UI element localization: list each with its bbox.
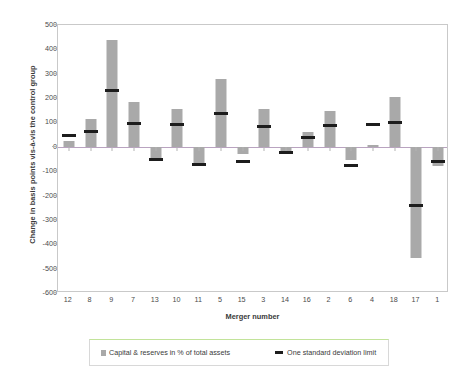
legend-bar-swatch-icon: [101, 350, 106, 356]
x-tick-mark: [242, 147, 243, 151]
x-tick-mark: [351, 147, 352, 151]
x-axis-tick-labels: 128971310115153141626418171: [57, 295, 448, 309]
bar-group: [340, 25, 362, 291]
bar-group: [362, 25, 384, 291]
bar: [107, 40, 118, 147]
bar: [324, 111, 335, 147]
y-tick-label: -200: [11, 190, 57, 199]
x-tick-mark: [416, 147, 417, 151]
std-deviation-marker: [279, 151, 293, 154]
plot-inner: [58, 25, 447, 291]
bars-layer: [58, 25, 447, 291]
y-tick-label: 100: [11, 117, 57, 126]
std-deviation-marker: [323, 124, 337, 127]
x-axis-title: Merger number: [57, 312, 448, 321]
std-deviation-marker: [170, 123, 184, 126]
y-tick-label: 400: [11, 44, 57, 53]
bar-group: [210, 25, 232, 291]
y-tick-label: -600: [11, 288, 57, 297]
std-deviation-marker: [192, 163, 206, 166]
x-tick-mark: [329, 147, 330, 151]
std-deviation-marker: [105, 89, 119, 92]
legend-item-std-deviation: One standard deviation limit: [275, 348, 376, 357]
x-tick-mark: [90, 147, 91, 151]
y-tick-mark: [52, 292, 57, 293]
std-deviation-marker: [127, 122, 141, 125]
bar-group: [297, 25, 319, 291]
x-tick-mark: [155, 147, 156, 151]
y-tick-label: 0: [11, 141, 57, 150]
std-deviation-marker: [149, 158, 163, 161]
y-tick-label: -100: [11, 166, 57, 175]
plot-area: [57, 24, 448, 292]
std-deviation-marker: [366, 123, 380, 126]
y-tick-label: -300: [11, 214, 57, 223]
x-tick-mark: [307, 147, 308, 151]
x-tick-mark: [134, 147, 135, 151]
bar-group: [427, 25, 449, 291]
x-tick-mark: [68, 147, 69, 151]
legend-item-capital-reserves: Capital & reserves in % of total assets: [101, 348, 230, 357]
bar-group: [101, 25, 123, 291]
chart-figure: Change in basis points vis-à-vis the con…: [0, 0, 469, 382]
bar-group: [406, 25, 428, 291]
bar: [172, 109, 183, 147]
bar-group: [123, 25, 145, 291]
x-tick-mark: [199, 147, 200, 151]
x-tick-mark: [394, 147, 395, 151]
bar-group: [232, 25, 254, 291]
chart-legend: Capital & reserves in % of total assets …: [89, 339, 389, 366]
x-tick-label: 1: [424, 295, 450, 304]
std-deviation-marker: [344, 164, 358, 167]
bar-group: [384, 25, 406, 291]
std-deviation-marker: [301, 136, 315, 139]
std-deviation-marker: [388, 121, 402, 124]
std-deviation-marker: [236, 160, 250, 163]
x-tick-mark: [220, 147, 221, 151]
bar: [411, 147, 422, 258]
bar-group: [319, 25, 341, 291]
x-tick-mark: [177, 147, 178, 151]
x-tick-mark: [438, 147, 439, 151]
x-tick-mark: [264, 147, 265, 151]
std-deviation-marker: [214, 112, 228, 115]
y-tick-label: -500: [11, 263, 57, 272]
bar-group: [275, 25, 297, 291]
legend-item-std-deviation-label: One standard deviation limit: [287, 348, 376, 357]
std-deviation-marker: [84, 130, 98, 133]
std-deviation-marker: [257, 125, 271, 128]
bar-group: [58, 25, 80, 291]
bar: [259, 109, 270, 147]
y-tick-label: 200: [11, 93, 57, 102]
std-deviation-marker: [431, 160, 445, 163]
legend-line-swatch-icon: [275, 351, 283, 354]
std-deviation-marker: [62, 134, 76, 137]
bar-group: [254, 25, 276, 291]
y-tick-label: 500: [11, 20, 57, 29]
x-tick-mark: [372, 147, 373, 151]
std-deviation-marker: [409, 204, 423, 207]
bar-group: [80, 25, 102, 291]
bar-group: [167, 25, 189, 291]
bar-group: [145, 25, 167, 291]
bar: [302, 132, 313, 147]
y-axis: 5004003002001000-100-200-300-400-500-600: [0, 0, 57, 382]
legend-item-capital-reserves-label: Capital & reserves in % of total assets: [109, 348, 230, 357]
bar-group: [188, 25, 210, 291]
x-tick-mark: [112, 147, 113, 151]
y-tick-label: 300: [11, 68, 57, 77]
y-tick-label: -400: [11, 239, 57, 248]
